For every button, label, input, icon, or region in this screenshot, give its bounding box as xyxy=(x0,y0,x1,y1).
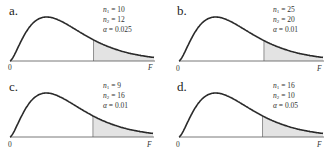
x-zero-label: 0 xyxy=(176,140,180,149)
n2-value: 10 xyxy=(287,91,295,100)
alpha-value: 0.05 xyxy=(285,101,298,110)
density-curve xyxy=(179,93,323,137)
panel-d: d. n1 = 16 n2 = 10 α = 0.05 0 F xyxy=(163,76,326,152)
panel-label: d. xyxy=(177,79,187,95)
density-curve xyxy=(10,93,153,137)
density-curve xyxy=(10,17,154,61)
x-axis-label: F xyxy=(148,63,153,72)
panel-c: c. n1 = 9 n2 = 16 α = 0.01 0 F xyxy=(0,76,163,152)
alpha-value: 0.025 xyxy=(115,25,132,34)
panel-a: a. n1 = 10 n2 = 12 α = 0.025 0 F xyxy=(0,0,163,76)
panel-b: b. n1 = 25 n2 = 20 α = 0.01 0 F xyxy=(163,0,326,76)
rejection-region xyxy=(264,41,323,61)
parameters: n1 = 10 n2 = 12 α = 0.025 xyxy=(103,6,132,34)
panel-label: b. xyxy=(177,3,187,19)
x-zero-label: 0 xyxy=(8,63,12,72)
panel-label: a. xyxy=(9,3,18,19)
f-distribution-plot xyxy=(163,0,326,76)
parameters: n1 = 25 n2 = 20 α = 0.01 xyxy=(273,6,298,34)
n2-value: 16 xyxy=(117,91,125,100)
n1-value: 25 xyxy=(287,5,295,14)
rejection-region xyxy=(93,116,153,137)
n2-value: 20 xyxy=(287,15,295,24)
x-zero-label: 0 xyxy=(8,140,12,149)
x-axis-label: F xyxy=(317,64,322,73)
alpha-value: 0.01 xyxy=(115,101,128,110)
x-axis-label: F xyxy=(317,140,322,149)
f-distribution-plot xyxy=(0,0,163,76)
parameters: n1 = 9 n2 = 16 α = 0.01 xyxy=(103,82,128,110)
density-curve xyxy=(179,17,323,61)
rejection-region xyxy=(94,40,155,61)
n1-value: 9 xyxy=(117,81,121,90)
f-distribution-plot xyxy=(0,76,163,153)
f-distribution-plot xyxy=(163,76,326,153)
alpha-value: 0.01 xyxy=(285,25,298,34)
n1-value: 10 xyxy=(117,5,125,14)
parameters: n1 = 16 n2 = 10 α = 0.05 xyxy=(273,82,298,110)
x-axis-label: F xyxy=(147,140,152,149)
x-zero-label: 0 xyxy=(176,64,180,73)
n1-value: 16 xyxy=(287,81,295,90)
rejection-region xyxy=(263,116,324,137)
panel-label: c. xyxy=(9,79,18,95)
n2-value: 12 xyxy=(117,15,125,24)
